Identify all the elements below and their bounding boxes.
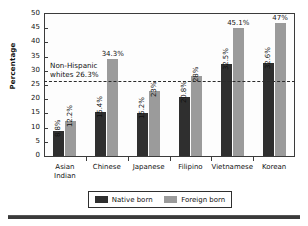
bottom-rule xyxy=(8,215,300,219)
bar-native-born xyxy=(221,64,232,156)
y-tick-mark xyxy=(44,113,48,114)
x-tick-mark xyxy=(170,157,171,161)
bar-value-label: 12.2% xyxy=(66,106,74,128)
bar-native-born xyxy=(95,112,106,156)
x-tick-mark xyxy=(211,157,212,161)
x-tick-mark xyxy=(86,157,87,161)
reference-line-annotation-line: Non-Hispanic xyxy=(50,61,99,70)
x-axis-category-line: Korean xyxy=(246,163,302,172)
bar-native-born xyxy=(263,63,274,156)
y-tick-label: 20 xyxy=(20,95,40,102)
y-tick-label: 0 xyxy=(20,152,40,159)
legend-swatch-native-born xyxy=(95,196,108,203)
bar-native-born xyxy=(137,113,148,156)
y-tick-mark xyxy=(44,28,48,29)
bar-value-label: 20.8% xyxy=(180,81,188,103)
bar-value-label: 15.2% xyxy=(138,97,146,119)
legend-item-native-born: Native born xyxy=(95,196,153,204)
bar-value-label: 15.4% xyxy=(96,97,104,119)
bar-value-label: 34.3% xyxy=(96,50,130,58)
chart-figure: Percentage 05101520253035404550 AsianInd… xyxy=(0,0,308,226)
legend-label-foreign-born: Foreign born xyxy=(181,196,225,204)
plot-area xyxy=(44,13,295,157)
reference-line-annotation: Non-Hispanicwhites 26.3% xyxy=(50,61,99,79)
y-tick-label: 15 xyxy=(20,109,40,116)
bar-foreign-born xyxy=(191,76,202,156)
y-tick-mark xyxy=(44,142,48,143)
y-tick-mark xyxy=(44,42,48,43)
bar-value-label: 23% xyxy=(150,81,158,96)
y-tick-label: 40 xyxy=(20,38,40,45)
bar-foreign-born xyxy=(149,91,160,156)
y-tick-mark xyxy=(44,99,48,100)
y-tick-label: 45 xyxy=(20,24,40,31)
bar-foreign-born xyxy=(233,28,244,156)
bar-value-label: 8.8% xyxy=(54,120,62,137)
y-tick-mark xyxy=(44,128,48,129)
y-tick-label: 5 xyxy=(20,138,40,145)
bar-value-label: 32.6% xyxy=(264,48,272,70)
y-tick-mark xyxy=(44,57,48,58)
legend-label-native-born: Native born xyxy=(112,196,153,204)
legend-item-foreign-born: Foreign born xyxy=(164,196,225,204)
y-tick-label: 35 xyxy=(20,53,40,60)
bar-value-label: 45.1% xyxy=(221,19,255,27)
x-axis-category-label: Korean xyxy=(246,163,302,172)
bar-value-label: 32.5% xyxy=(222,48,230,70)
reference-line-annotation-line: whites 26.3% xyxy=(50,70,99,79)
x-tick-mark xyxy=(253,157,254,161)
y-tick-mark xyxy=(44,85,48,86)
y-tick-label: 30 xyxy=(20,67,40,74)
y-tick-label: 50 xyxy=(20,10,40,17)
y-tick-label: 25 xyxy=(20,81,40,88)
x-tick-mark xyxy=(128,157,129,161)
x-axis-category-line: Indian xyxy=(37,172,93,181)
bar-value-label: 47% xyxy=(263,14,297,22)
y-axis-title: Percentage xyxy=(9,26,17,106)
bar-value-label: 28% xyxy=(192,67,200,82)
chart-legend: Native born Foreign born xyxy=(88,191,232,208)
bar-foreign-born xyxy=(275,23,286,156)
y-tick-label: 10 xyxy=(20,124,40,131)
y-tick-mark xyxy=(44,71,48,72)
legend-swatch-foreign-born xyxy=(164,196,177,203)
bar-foreign-born xyxy=(107,59,118,156)
reference-line xyxy=(44,81,295,82)
bar-native-born xyxy=(179,97,190,156)
